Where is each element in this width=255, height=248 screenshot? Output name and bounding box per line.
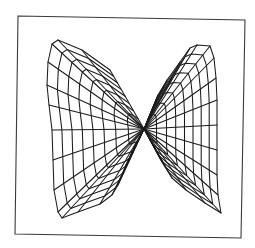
mesh-spoke	[62, 129, 144, 218]
mesh-spoke	[58, 40, 144, 129]
left-wing-mesh	[47, 40, 144, 218]
figure-frame	[15, 16, 245, 238]
mesh-spoke	[78, 129, 144, 212]
mesh-spoke	[144, 45, 197, 129]
mesh-spoke	[48, 62, 144, 129]
mesh-spoke	[144, 129, 205, 203]
butterfly-mesh-figure	[0, 0, 255, 248]
mesh-spoke	[52, 129, 144, 130]
mesh-spoke	[144, 58, 214, 129]
mesh-spoke	[100, 129, 144, 204]
mesh-spoke	[58, 129, 144, 212]
mesh-spoke	[144, 125, 217, 129]
mesh-spoke	[47, 85, 144, 129]
mesh-spoke	[54, 129, 144, 190]
right-wing-mesh	[144, 45, 221, 213]
mesh-spoke	[52, 44, 144, 129]
